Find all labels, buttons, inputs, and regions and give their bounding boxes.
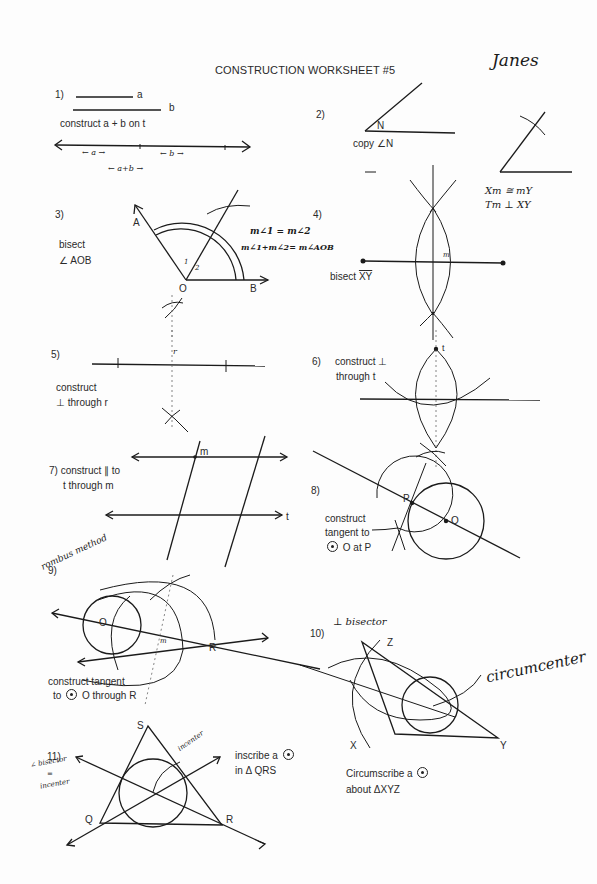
- line-t-label: t: [286, 509, 289, 524]
- problem-3-instruction-line2: ∠ AOB: [59, 253, 91, 268]
- point-z-label: Z: [387, 635, 393, 650]
- point-a-label: A: [133, 215, 140, 230]
- student-name: Janes: [492, 50, 539, 70]
- problem-10-instruction-line2: about ΔXYZ: [346, 782, 400, 797]
- problem-3-number: 3): [55, 207, 64, 222]
- problem-8-instruction-line3: O at P: [325, 540, 371, 555]
- problem-2-number: 2): [316, 107, 325, 122]
- problem-3-instruction-line1: bisect: [59, 237, 85, 252]
- problem-3-drawing: [134, 190, 268, 340]
- point-b-label: B: [250, 281, 257, 296]
- problem-6-number: 6): [312, 354, 321, 369]
- problem-5-instruction-line1: construct: [56, 380, 97, 395]
- problem-8-number: 8): [311, 483, 320, 498]
- handwritten-perpendicular-note: Tm ⊥ XY: [485, 199, 531, 210]
- point-p-label: P: [403, 491, 410, 506]
- point-r-label-9: R: [209, 640, 216, 655]
- worksheet-title: CONSTRUCTION WORKSHEET #5: [215, 63, 395, 78]
- worksheet-page: CONSTRUCTION WORKSHEET #5 Janes 1) a b c…: [0, 0, 597, 884]
- mark-m-9: m: [160, 637, 167, 645]
- problem-5-instruction-line2: ⊥ through r: [56, 395, 108, 410]
- problem-6-instruction-line2: through t: [336, 369, 375, 384]
- problem-7-drawing: [106, 436, 287, 567]
- segment-xy-label: XY: [359, 271, 372, 282]
- point-t-label: t: [442, 341, 445, 356]
- problem-9-number: 9): [48, 563, 57, 578]
- point-y-label: Y: [500, 738, 507, 753]
- problem-2-drawing: [365, 83, 572, 172]
- problem-10-instruction-line1: Circumscribe a: [346, 766, 430, 781]
- problem-9-instruction-line1: construct tangent: [48, 674, 125, 689]
- point-x-label: X: [350, 738, 357, 753]
- point-o-label-9: O: [99, 615, 107, 630]
- handwritten-note-2: m∠1+m∠2= m∠AOB: [241, 242, 334, 252]
- problem-6-drawing: [360, 330, 540, 470]
- problem-1-instruction: construct a + b on t: [60, 116, 145, 131]
- perp-bisector-note: ⊥ bisector: [333, 616, 387, 627]
- circle-dot-icon: [327, 541, 338, 552]
- angle-2-mark: 2: [195, 264, 199, 272]
- point-r-label-11: R: [226, 812, 233, 827]
- angle-bisector-note-2: =: [47, 770, 53, 778]
- segment-a-label: a: [137, 87, 143, 102]
- angle-1-mark: 1: [184, 258, 188, 266]
- problem-7-number: 7): [49, 465, 58, 476]
- problem-11-drawing: [67, 726, 265, 849]
- problem-9-instruction-line2: to O through R: [53, 688, 136, 703]
- problem-5-number: 5): [51, 347, 60, 362]
- problem-4-drawing: [361, 165, 506, 340]
- circle-dot-icon: [283, 749, 294, 760]
- problem-8-instruction-line1: construct: [325, 511, 366, 526]
- point-s-label: S: [137, 718, 144, 733]
- point-r-label: r: [173, 347, 177, 356]
- problem-8-instruction-line2: tangent to: [325, 525, 369, 540]
- problem-6-instruction-line1: construct ⊥: [335, 354, 387, 369]
- handwritten-note-1: m∠1 = m∠2: [250, 226, 310, 236]
- segment-b-label: b: [169, 100, 175, 115]
- problem-4-instruction: bisect XY: [330, 269, 372, 284]
- problem-4-number: 4): [313, 207, 322, 222]
- point-m-label: m: [200, 444, 208, 459]
- construction-drawings: [0, 0, 597, 884]
- handwritten-congruent-note: Xm ≅ mY: [485, 185, 532, 196]
- handwritten-b-label: ← b →: [160, 149, 184, 158]
- problem-7-instruction-line1: 7) construct ∥ to: [49, 463, 120, 478]
- point-o-label-8: O: [451, 513, 459, 528]
- problem-1-number: 1): [55, 87, 64, 102]
- handwritten-a-label: ← a →: [82, 148, 105, 157]
- problem-11-instruction-line1: inscribe a: [235, 748, 296, 763]
- vertex-n-label: N: [377, 118, 384, 133]
- problem-5-drawing: [92, 330, 265, 432]
- handwritten-ab-label: ← a+b →: [108, 164, 143, 173]
- problem-11-instruction-line2: in Δ QRS: [235, 763, 276, 778]
- problem-7-instruction-line2: t through m: [63, 478, 114, 493]
- midpoint-m-label: m: [443, 251, 450, 259]
- point-q-label: Q: [85, 812, 93, 827]
- circle-dot-icon: [417, 767, 428, 778]
- circle-dot-icon: [66, 689, 77, 700]
- point-o-label: O: [179, 281, 187, 296]
- bisect-label: bisect: [330, 271, 356, 282]
- problem-10-drawing: [300, 640, 498, 748]
- problem-2-instruction: copy ∠N: [353, 136, 393, 151]
- problem-10-number: 10): [310, 626, 324, 641]
